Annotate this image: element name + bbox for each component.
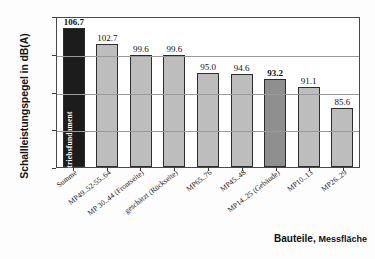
- y-axis-tick-mark: [52, 17, 56, 18]
- x-axis-tick-mark: [276, 167, 277, 171]
- y-axis-tick-mark: [52, 93, 56, 94]
- x-axis-title: Bauteile, Messfläche: [0, 233, 367, 244]
- x-axis-tick-mark: [343, 167, 344, 171]
- y-axis-tick-mark: [52, 130, 56, 131]
- x-axis-tick-mark: [309, 167, 310, 171]
- x-axis-title-main: Bauteile,: [274, 233, 316, 244]
- x-axis-tick-mark: [140, 167, 141, 171]
- y-axis-ticks: 110100908070: [56, 17, 360, 168]
- y-axis-tick-mark: [52, 55, 56, 56]
- bar-chart-figure: Schallleistungspegel in dB(A) L WA = Ant…: [0, 0, 375, 259]
- y-axis-title: Schallleistungspegel in dB(A): [18, 18, 30, 194]
- x-axis-tick-mark: [242, 167, 243, 171]
- x-axis-tick-mark: [174, 167, 175, 171]
- x-axis-tick-mark: [208, 167, 209, 171]
- x-axis-tick-mark: [107, 167, 108, 171]
- x-axis-tick-labels: SummeMP49..52-55..64MP 30..44 (Frontseit…: [56, 168, 360, 230]
- x-axis-title-sub: Messfläche: [318, 234, 367, 244]
- x-axis-tick-mark: [73, 167, 74, 171]
